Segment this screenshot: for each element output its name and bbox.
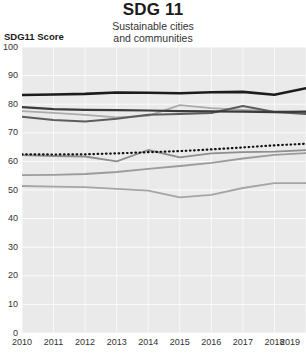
x-tick-label: 2013 [102,337,132,347]
y-tick-label: 20 [0,270,18,280]
x-tick-label: 2014 [133,337,163,347]
x-tick-label: 2017 [228,337,258,347]
x-tick-label: 2015 [165,337,195,347]
x-tick-label: 2012 [70,337,100,347]
y-tick-label: 80 [0,99,18,109]
y-tick-label: 50 [0,185,18,195]
y-tick-label: 30 [0,242,18,252]
x-tick-label: 2011 [39,337,69,347]
y-tick-label: 60 [0,156,18,166]
line-1-black-thick [22,88,306,95]
y-tick-label: 100 [0,42,18,52]
x-tick-label: 2019 [275,337,305,347]
y-tick-label: 40 [0,213,18,223]
chart-plot-area [22,47,306,333]
x-tick-label: 2016 [196,337,226,347]
chart-title: SDG 11 [0,0,306,20]
chart-canvas [22,47,306,333]
y-tick-label: 0 [0,328,18,338]
x-tick-label: 2010 [7,337,37,347]
y-axis-ticks: 1009080706050403020100 [0,0,19,356]
chart-page: { "header": { "title": "SDG 11", "subtit… [0,0,306,356]
y-tick-label: 70 [0,127,18,137]
y-tick-label: 90 [0,70,18,80]
x-axis-ticks: 2010201120122013201420152016201720182019 [0,337,306,351]
y-tick-label: 10 [0,299,18,309]
